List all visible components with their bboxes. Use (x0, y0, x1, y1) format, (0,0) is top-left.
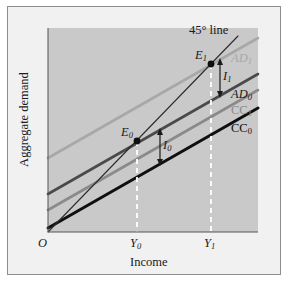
label-curve-ad1: AD1 (231, 52, 252, 65)
x-tick-label-y0: Y0 (130, 237, 141, 250)
label-gap-i1: I1 (223, 70, 231, 83)
label-curve-ad0: AD0 (231, 88, 252, 101)
label-point-e0: E0 (121, 126, 133, 139)
point-e0 (134, 138, 141, 145)
label-point-e1: E1 (195, 49, 207, 62)
plot-area (48, 28, 258, 232)
y-axis-title: Aggregate demand (17, 60, 32, 180)
x-axis-title: Income (130, 256, 167, 269)
label-gap-i0: I0 (163, 139, 171, 152)
label-curve-cc0: CC0 (231, 122, 252, 135)
label-curve-cc1: CC1 (231, 104, 252, 117)
x-tick-label-y1: Y1 (204, 237, 215, 250)
figure-container: 45° line AD1 AD0 CC1 CC0 E0 E1 I0 I1 Y0 … (0, 0, 290, 283)
point-e1 (208, 61, 215, 68)
label-45-degree-line: 45° line (189, 24, 228, 37)
origin-label: O (38, 237, 47, 250)
